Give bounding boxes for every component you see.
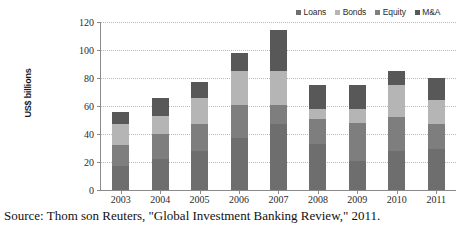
bar-segment-equity — [191, 124, 208, 151]
bar-segment-ma — [191, 82, 208, 97]
stacked-bar — [309, 85, 326, 190]
bar-group: 2006 — [219, 22, 258, 190]
stacked-bar — [349, 85, 366, 190]
stacked-bar — [112, 112, 129, 190]
bar-segment-bonds — [388, 85, 405, 117]
x-axis-tick-label: 2010 — [387, 194, 407, 205]
x-axis-tick-label: 2008 — [308, 194, 328, 205]
chart-figure: Loans Bonds Equity M&A US$ billions 0204… — [0, 0, 475, 231]
bar-segment-bonds — [270, 71, 287, 105]
bar-segment-ma — [270, 30, 287, 71]
bar-segment-equity — [270, 105, 287, 125]
bar-segment-loans — [112, 166, 129, 190]
bar-group: 2005 — [180, 22, 219, 190]
y-axis-tick-label: 40 — [68, 129, 94, 140]
bar-segment-equity — [428, 124, 445, 149]
bar-series-group: 200320042005200620072008200920102011 — [101, 22, 456, 190]
bar-segment-equity — [112, 145, 129, 166]
bar-segment-bonds — [112, 124, 129, 145]
x-axis-tick-label: 2007 — [268, 194, 288, 205]
stacked-bar — [428, 78, 445, 190]
x-axis-tick-label: 2005 — [190, 194, 210, 205]
bar-segment-ma — [231, 53, 248, 71]
y-axis-tick-label: 120 — [68, 17, 94, 28]
stacked-bar — [231, 53, 248, 190]
bar-segment-equity — [309, 119, 326, 144]
bar-segment-loans — [231, 138, 248, 190]
y-axis-tick-label: 60 — [68, 101, 94, 112]
bar-segment-loans — [152, 159, 169, 190]
y-axis-tickmark — [97, 190, 101, 191]
bar-segment-loans — [309, 144, 326, 190]
bar-segment-loans — [388, 151, 405, 190]
y-axis-tick-label: 80 — [68, 73, 94, 84]
bar-segment-bonds — [349, 109, 366, 123]
y-axis-tick-label: 100 — [68, 45, 94, 56]
stacked-bar — [191, 82, 208, 190]
bar-group: 2008 — [298, 22, 337, 190]
bar-segment-equity — [349, 123, 366, 161]
bar-segment-ma — [112, 112, 129, 125]
bar-segment-equity — [388, 117, 405, 151]
stacked-bar — [388, 71, 405, 190]
bar-group: 2003 — [101, 22, 140, 190]
bar-segment-equity — [231, 105, 248, 139]
bar-segment-ma — [428, 78, 445, 100]
bar-segment-bonds — [231, 71, 248, 105]
bar-segment-equity — [152, 134, 169, 159]
plot-wrapper: US$ billions 020406080100120 20032004200… — [0, 0, 475, 205]
bar-segment-bonds — [428, 100, 445, 124]
x-axis-tick-label: 2009 — [347, 194, 367, 205]
y-axis-tick-labels: 020406080100120 — [68, 0, 94, 205]
bar-segment-bonds — [309, 109, 326, 119]
bar-group: 2009 — [338, 22, 377, 190]
bar-group: 2004 — [140, 22, 179, 190]
bar-segment-loans — [191, 151, 208, 190]
y-axis-tick-label: 0 — [68, 185, 94, 196]
bar-group: 2010 — [377, 22, 416, 190]
x-axis-tick-label: 2004 — [150, 194, 170, 205]
stacked-bar — [152, 98, 169, 190]
bar-segment-loans — [349, 161, 366, 190]
bar-group: 2011 — [417, 22, 456, 190]
bar-segment-ma — [152, 98, 169, 116]
x-axis-tick-label: 2006 — [229, 194, 249, 205]
bar-segment-ma — [309, 85, 326, 109]
source-caption: Source: Thom son Reuters, "Global Invest… — [4, 208, 380, 224]
bar-segment-loans — [428, 149, 445, 190]
y-axis-title: US$ billions — [23, 48, 33, 138]
bar-segment-loans — [270, 124, 287, 190]
bar-segment-ma — [349, 85, 366, 109]
y-axis-tick-label: 20 — [68, 157, 94, 168]
plot-area: 200320042005200620072008200920102011 — [100, 22, 456, 191]
stacked-bar — [270, 30, 287, 190]
x-axis-tick-label: 2003 — [111, 194, 131, 205]
bar-group: 2007 — [259, 22, 298, 190]
bar-segment-ma — [388, 71, 405, 85]
bar-segment-bonds — [152, 116, 169, 134]
x-axis-tick-label: 2011 — [426, 194, 446, 205]
bar-segment-bonds — [191, 98, 208, 125]
